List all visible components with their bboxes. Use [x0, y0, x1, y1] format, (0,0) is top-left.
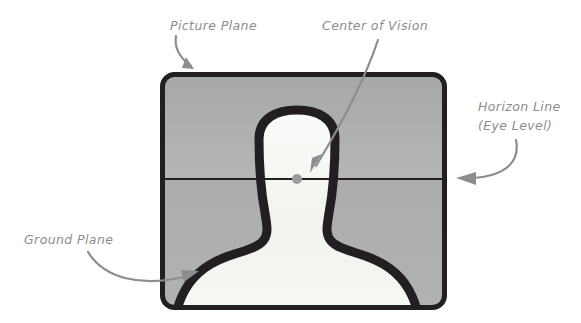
- horizon-line-arrow: [456, 140, 517, 185]
- diagram-canvas: Picture Plane Center of Vision Horizon L…: [0, 0, 581, 323]
- label-center-of-vision: Center of Vision: [322, 18, 428, 33]
- label-horizon-line: Horizon Line: [478, 99, 561, 114]
- label-picture-plane: Picture Plane: [170, 18, 257, 33]
- label-ground-plane: Ground Plane: [24, 232, 113, 247]
- picture-plane-arrow: [176, 36, 194, 69]
- center-of-vision-dot: [292, 174, 302, 184]
- picture-plane-frame: [160, 72, 447, 320]
- label-eye-level: (Eye Level): [478, 118, 552, 133]
